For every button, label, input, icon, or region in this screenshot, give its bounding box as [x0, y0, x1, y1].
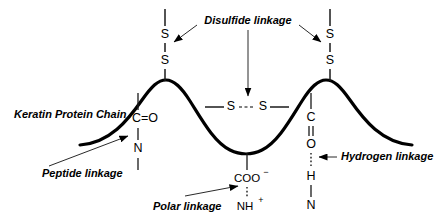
- bridge-left-sulfur-label: S: [227, 99, 235, 113]
- peptide-linkage-arrow: [49, 136, 128, 166]
- peptide-group: C=O N: [132, 93, 158, 170]
- right-disulfide-group: S S: [326, 9, 334, 81]
- peptide-nitrogen-label: N: [133, 141, 142, 155]
- disulfide-arrow-right: [299, 25, 321, 42]
- hbond-nitrogen-label: N: [306, 198, 315, 212]
- left-disulfide-group: S S: [161, 9, 169, 81]
- hbond-hydrogen-label: H: [306, 169, 315, 183]
- diagram-canvas: S S S S S S C=O N: [0, 0, 439, 224]
- hydrogen-bond-group: C O H N: [306, 93, 316, 212]
- peptide-linkage-label: Peptide linkage: [42, 167, 123, 179]
- keratin-linkage-diagram: S S S S S S C=O N: [0, 0, 439, 224]
- peptide-carbonyl-label: C=O: [132, 111, 158, 125]
- hydrogen-linkage-label: Hydrogen linkage: [341, 150, 433, 162]
- bridge-right-sulfur-label: S: [259, 99, 267, 113]
- hydrogen-linkage-annotation: Hydrogen linkage: [319, 150, 433, 162]
- polar-carboxylate-label: COO: [234, 172, 260, 184]
- polar-ammonium-label: NH: [237, 200, 254, 212]
- right-disulfide-upper-sulfur-label: S: [326, 27, 334, 41]
- keratin-protein-chain-curve: [80, 80, 412, 154]
- hbond-oxygen-label: O: [306, 137, 316, 151]
- hbond-carbon-label: C: [306, 110, 315, 124]
- polar-ammonium-charge: +: [258, 195, 263, 205]
- disulfide-linkage-annotation: Disulfide linkage: [174, 14, 321, 96]
- polar-linkage-annotation: Polar linkage: [153, 186, 238, 212]
- disulfide-linkage-label: Disulfide linkage: [204, 14, 291, 26]
- peptide-linkage-annotation: Peptide linkage: [42, 136, 128, 179]
- right-disulfide-lower-sulfur-label: S: [326, 53, 334, 67]
- polar-carboxylate-charge: −: [263, 167, 268, 177]
- polar-group: COO − NH +: [234, 153, 269, 212]
- keratin-protein-chain-annotation: Keratin Protein Chain: [14, 108, 127, 120]
- left-disulfide-lower-sulfur-label: S: [161, 53, 169, 67]
- keratin-protein-chain-label: Keratin Protein Chain: [14, 108, 127, 120]
- bridge-disulfide-group: S S: [205, 99, 289, 113]
- disulfide-arrow-left: [174, 25, 197, 42]
- polar-linkage-arrow: [185, 186, 238, 196]
- polar-linkage-label: Polar linkage: [153, 200, 221, 212]
- left-disulfide-upper-sulfur-label: S: [161, 27, 169, 41]
